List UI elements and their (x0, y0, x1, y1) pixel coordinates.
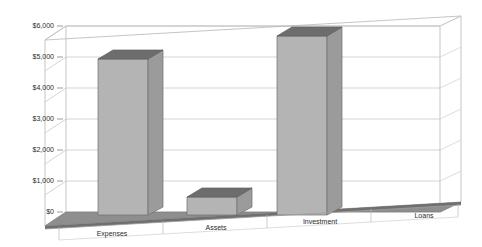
bar-expenses-front (98, 59, 148, 215)
category-label-loans: Loans (394, 212, 454, 220)
ytick-label-5000: $5,000 (16, 53, 54, 61)
bar-investment-front (277, 36, 327, 215)
ytick-label-6000: $6,000 (16, 22, 54, 30)
category-label-assets: Assets (186, 224, 246, 232)
category-label-investment: Investment (290, 218, 350, 226)
bar-investment[interactable] (277, 27, 342, 215)
ytick-label-2000: $2,000 (16, 146, 54, 154)
bar-investment-side (327, 27, 342, 215)
bar-chart-3d: $6,000 $5,000 $4,000 $3,000 $2,000 $1,00… (0, 0, 482, 247)
chart-canvas (0, 0, 482, 247)
value-axis-ticks (57, 26, 63, 212)
bar-expenses-side (148, 50, 163, 215)
bar-assets-front (187, 197, 237, 215)
bar-assets[interactable] (187, 188, 252, 215)
right-wall-gridline-stubs (440, 16, 461, 212)
ytick-label-3000: $3,000 (16, 115, 54, 123)
ytick-label-0: $0 (16, 208, 54, 216)
category-label-expenses: Expenses (82, 230, 142, 238)
bar-expenses[interactable] (98, 50, 163, 215)
ytick-label-4000: $4,000 (16, 84, 54, 92)
ytick-label-1000: $1,000 (16, 177, 54, 185)
